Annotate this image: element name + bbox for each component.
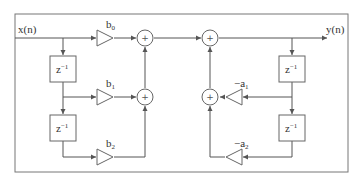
svg-text:+: + <box>141 92 149 102</box>
gain-a2-triangle <box>226 149 242 165</box>
delay-block-right-1: z−1 <box>279 56 305 82</box>
diagram-canvas: z−1 z−1 z−1 z−1 b0 b1 b2 −a1 −a2 + + + +… <box>0 0 360 182</box>
biquad-filter-diagram: z−1 z−1 z−1 z−1 b0 b1 b2 −a1 −a2 + + + +… <box>0 0 360 182</box>
gain-a1-label: −a1 <box>234 77 249 91</box>
svg-text:+: + <box>141 33 149 43</box>
sum-junction-fb-top: + <box>202 30 218 46</box>
gain-b1-triangle <box>97 89 113 105</box>
sum-junction-ff-top: + <box>137 30 153 46</box>
delay-block-left-2: z−1 <box>50 115 76 141</box>
svg-text:+: + <box>206 92 214 102</box>
sum-junction-fb-bottom: + <box>202 89 218 105</box>
input-label: x(n) <box>18 23 37 36</box>
delay-block-left-1: z−1 <box>50 56 76 82</box>
gain-b2-label: b2 <box>106 137 116 151</box>
gain-b2-triangle <box>97 149 113 165</box>
svg-text:+: + <box>206 33 214 43</box>
gain-b0-label: b0 <box>106 18 116 32</box>
gain-b0-triangle <box>97 30 113 46</box>
gain-a2-label: −a2 <box>234 137 249 151</box>
delay-block-right-2: z−1 <box>279 115 305 141</box>
sum-junction-ff-bottom: + <box>137 89 153 105</box>
gain-b1-label: b1 <box>106 77 116 91</box>
gain-a1-triangle <box>226 89 242 105</box>
output-label: y(n) <box>326 23 345 36</box>
